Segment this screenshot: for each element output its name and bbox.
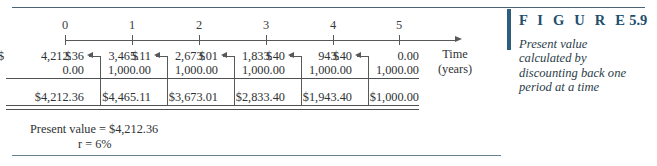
- caption-line: period at a time: [519, 80, 651, 95]
- figure-number: 5.9: [629, 12, 647, 28]
- timeline-tick: [399, 35, 400, 45]
- discount-arrow-icon: [154, 49, 168, 63]
- caption-line: discounting back one: [519, 66, 651, 81]
- timeline-tick: [333, 35, 334, 45]
- currency-symbol: $: [65, 49, 71, 63]
- timeline-tick-label: 2: [189, 19, 209, 31]
- timeline-tick: [199, 35, 200, 45]
- carry-connector: [167, 56, 181, 106]
- figure-5-9: F I G U R E5.9 Present value calculated …: [0, 0, 657, 166]
- cash-flow-value: 1,000.00: [376, 63, 419, 77]
- carry-connector: [234, 56, 248, 106]
- caption-line: Present value: [519, 37, 651, 52]
- timeline-tick-label: 3: [256, 19, 276, 31]
- total-value: 1,000.00: [376, 90, 419, 104]
- timeline-tick-label: 5: [389, 19, 409, 31]
- bottom-rule: [12, 155, 501, 156]
- time-axis-label-line2: (years): [425, 62, 485, 77]
- discount-arrow-icon: [221, 49, 235, 63]
- discount-rate-note: r = 6%: [78, 137, 112, 152]
- carry-connector: [100, 56, 114, 106]
- timeline-tick-label: 4: [323, 19, 343, 31]
- time-axis-label-line1: Time: [425, 47, 485, 62]
- top-rule: [12, 7, 645, 8]
- figure-caption-panel: F I G U R E5.9 Present value calculated …: [519, 13, 651, 95]
- time-axis-label: Time (years): [425, 47, 485, 77]
- currency-symbol: $: [266, 49, 272, 63]
- caption-line: calculated by: [519, 51, 651, 66]
- figure-accent-bar: [507, 9, 511, 50]
- discount-arrow-icon: [355, 49, 369, 63]
- timeline-tick-label: 0: [55, 19, 75, 31]
- currency-symbol: $: [132, 49, 138, 63]
- discounted-value: 0.00: [397, 49, 419, 63]
- timeline-tick: [266, 35, 267, 45]
- timeline-tick: [65, 35, 66, 45]
- present-value-note: Present value = $4,212.36: [30, 122, 158, 137]
- carry-connector: [301, 56, 315, 106]
- figure-title-word: F I G U R E: [519, 12, 628, 28]
- discount-arrow-icon: [87, 49, 101, 63]
- figure-title: F I G U R E5.9: [519, 13, 651, 28]
- currency-symbol: $: [0, 49, 4, 63]
- figure-caption: Present value calculated by discounting …: [519, 37, 651, 95]
- timeline-tick-label: 1: [122, 19, 142, 31]
- discount-arrow-icon: [288, 49, 302, 63]
- timeline-arrowhead-icon: [455, 36, 462, 42]
- timeline-tick: [132, 35, 133, 45]
- currency-symbol: $: [199, 49, 205, 63]
- carry-connector: [368, 56, 382, 106]
- currency-symbol: $: [333, 49, 339, 63]
